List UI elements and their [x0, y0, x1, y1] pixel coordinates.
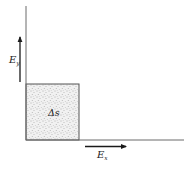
ex-label: Ex	[96, 149, 108, 161]
ex-label-sub: x	[104, 154, 108, 161]
delta-s-label: Δs	[47, 107, 60, 118]
field-area-diagram: Ey Ex Δs	[0, 0, 195, 170]
ey-label: Ey	[8, 54, 20, 67]
ey-label-sub: y	[15, 59, 20, 67]
